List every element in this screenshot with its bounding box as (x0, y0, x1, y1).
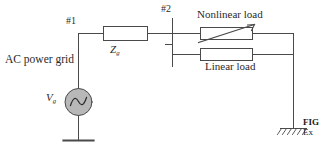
grid-impedance-box (104, 27, 148, 41)
caption-text-line-1: Ex (303, 127, 329, 137)
label-nonlinear-load: Nonlinear load (197, 9, 263, 20)
figure-caption: FIG Ex (303, 117, 329, 137)
source-voltage-subscript: g (53, 97, 56, 104)
figure-circuit-diagram: AC power grid #1 #2 Zg Vg Nonlinear load… (0, 0, 329, 147)
circuit-schematic-canvas (0, 0, 329, 147)
label-node-2: #2 (161, 4, 171, 14)
caption-figure-number: FIG (303, 117, 329, 127)
grid-impedance-subscript: g (116, 49, 119, 56)
label-grid-impedance: Zg (110, 44, 120, 55)
source-voltage-symbol: V (46, 91, 53, 103)
label-source-voltage: Vg (46, 92, 56, 103)
label-node-1: #1 (66, 16, 76, 26)
label-ac-power-grid: AC power grid (5, 54, 74, 66)
label-linear-load: Linear load (205, 61, 255, 72)
linear-load-box (201, 49, 253, 61)
